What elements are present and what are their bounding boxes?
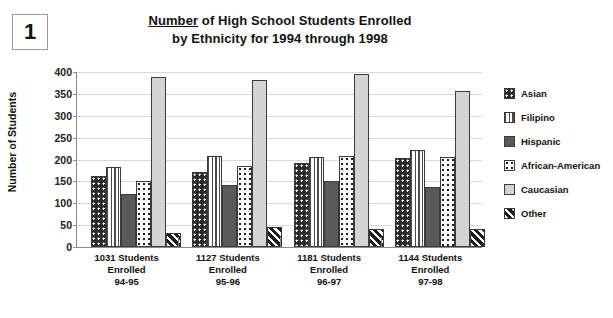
legend-item-label: Asian	[521, 89, 547, 99]
legend-item-african-american[interactable]: African-American	[504, 160, 610, 171]
legend-swatch-icon	[504, 208, 515, 219]
y-axis-tickmark	[73, 94, 77, 95]
bar-asian	[192, 172, 207, 247]
chart-title-line2: by Ethnicity for 1994 through 1998	[172, 31, 388, 46]
y-axis-tick-label: 150	[54, 175, 72, 187]
bar-filipino	[106, 167, 121, 247]
legend-item-hispanic[interactable]: Hispanic	[504, 136, 610, 147]
category-separator	[280, 237, 281, 247]
legend-item-label: Filipino	[521, 113, 555, 123]
bar-filipino	[410, 150, 425, 247]
y-axis-tick-label: 0	[66, 241, 72, 253]
bar-asian	[294, 163, 309, 247]
chart-title-line1-rest: of High School Students Enrolled	[198, 13, 411, 28]
chart-legend: AsianFilipinoHispanicAfrican-AmericanCau…	[504, 88, 610, 232]
legend-item-label: Hispanic	[521, 137, 561, 147]
x-axis-label: 1181 Students Enrolled 96-97	[279, 252, 380, 288]
legend-swatch-icon	[504, 88, 515, 99]
y-axis-tickmark	[73, 72, 77, 73]
legend-swatch-icon	[504, 184, 515, 195]
y-axis-tickmark	[73, 116, 77, 117]
chart-title: Number of High School Students Enrolled …	[120, 12, 440, 47]
y-axis-tickmark	[73, 247, 77, 248]
legend-item-asian[interactable]: Asian	[504, 88, 610, 99]
y-axis-tickmark	[73, 203, 77, 204]
x-axis-label: 1144 Students Enrolled 97-98	[380, 252, 481, 288]
bar-african-american	[136, 181, 151, 247]
bar-group	[395, 72, 489, 247]
y-axis-tick-label: 100	[54, 197, 72, 209]
bar-caucasian	[354, 74, 369, 247]
y-axis-label: Number of Students	[6, 92, 18, 192]
legend-swatch-icon	[504, 136, 515, 147]
bar-african-american	[339, 156, 354, 247]
bar-african-american	[237, 166, 252, 247]
y-axis-tick-label: 300	[54, 110, 72, 122]
y-axis-tickmark	[73, 225, 77, 226]
bar-asian	[91, 176, 106, 247]
legend-item-label: Caucasian	[521, 185, 569, 195]
category-separator	[381, 237, 382, 247]
legend-item-caucasian[interactable]: Caucasian	[504, 184, 610, 195]
category-separator	[178, 237, 179, 247]
x-axis-label: 1127 Students Enrolled 95-96	[177, 252, 278, 288]
bar-group	[192, 72, 286, 247]
chart-title-underlined: Number	[148, 13, 198, 28]
bar-other	[470, 229, 485, 247]
x-axis-label: 1031 Students Enrolled 94-95	[76, 252, 177, 288]
figure-number-box: 1	[12, 14, 48, 50]
y-axis-tickmark	[73, 138, 77, 139]
legend-item-filipino[interactable]: Filipino	[504, 112, 610, 123]
y-axis-tick-label: 400	[54, 66, 72, 78]
plot-area: 050100150200250300350400	[76, 72, 482, 248]
bar-asian	[395, 158, 410, 247]
y-axis-tick-label: 200	[54, 154, 72, 166]
legend-item-other[interactable]: Other	[504, 208, 610, 219]
legend-swatch-icon	[504, 112, 515, 123]
y-axis-tick-label: 350	[54, 88, 72, 100]
bar-hispanic	[222, 185, 237, 247]
legend-item-label: Other	[521, 209, 546, 219]
bar-filipino	[207, 156, 222, 247]
bar-caucasian	[151, 77, 166, 247]
bar-african-american	[440, 157, 455, 247]
bar-hispanic	[121, 194, 136, 247]
figure-number: 1	[24, 21, 36, 43]
chart-figure: 1 Number of High School Students Enrolle…	[0, 0, 613, 318]
y-axis-tick-label: 50	[60, 219, 72, 231]
bar-hispanic	[425, 187, 440, 247]
bar-group	[91, 72, 185, 247]
y-axis-tick-label: 250	[54, 132, 72, 144]
bar-caucasian	[455, 91, 470, 247]
y-axis-tickmark	[73, 181, 77, 182]
legend-swatch-icon	[504, 160, 515, 171]
y-axis-tickmark	[73, 160, 77, 161]
bar-group	[294, 72, 388, 247]
bar-hispanic	[324, 181, 339, 248]
legend-item-label: African-American	[521, 161, 600, 171]
bar-caucasian	[252, 80, 267, 247]
bar-filipino	[309, 157, 324, 247]
